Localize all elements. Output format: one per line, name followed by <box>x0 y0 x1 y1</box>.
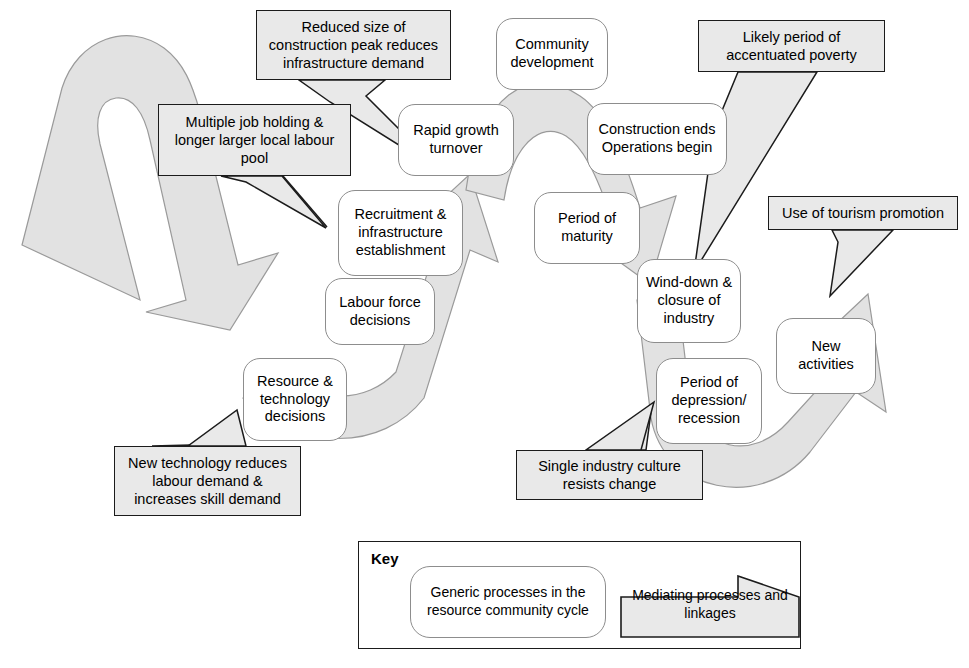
process-node-recruitment: Recruitment &infrastructureestablishment <box>338 190 463 276</box>
diagram-canvas: .flow { fill: #e2e2e2; stroke: #9a9a9a; … <box>0 0 969 668</box>
mediating-callout-tourism: Use of tourism promotion <box>768 196 958 230</box>
process-node-label: Communitydevelopment <box>510 36 593 72</box>
key-title: Key <box>371 550 399 567</box>
mediating-callout-likely-poverty: Likely period ofaccentuated poverty <box>698 20 885 72</box>
process-node-label: Newactivities <box>798 338 854 374</box>
process-node-resource-technology: Resource &technologydecisions <box>243 358 347 441</box>
process-node-label: Recruitment &infrastructureestablishment <box>355 206 447 260</box>
process-node-period-maturity: Period ofmaturity <box>534 192 640 264</box>
mediating-callout-label: Multiple job holding &longer larger loca… <box>175 113 335 168</box>
process-node-period-depression: Period ofdepression/recession <box>656 358 762 444</box>
callout-tail-multiple-job <box>221 176 326 228</box>
process-node-label: Construction endsOperations begin <box>599 121 716 157</box>
process-node-community-dev: Communitydevelopment <box>496 18 608 90</box>
process-node-label: Wind-down &closure ofindustry <box>646 274 732 328</box>
mediating-callout-label: New technology reduceslabour demand &inc… <box>128 454 287 509</box>
mediating-callout-label: Use of tourism promotion <box>782 204 944 222</box>
mediating-callout-new-technology: New technology reduceslabour demand &inc… <box>114 446 301 516</box>
key-mediating-label: Mediating processes andlinkages <box>620 587 800 622</box>
key-legend: Key Generic processes in theresource com… <box>358 541 801 649</box>
process-node-rapid-growth: Rapid growthturnover <box>398 104 514 176</box>
callout-tail-new-technology <box>152 412 238 446</box>
mediating-callout-single-industry: Single industry cultureresists change <box>516 450 703 500</box>
flow-band-left-descent <box>22 36 278 330</box>
process-node-label: Labour forcedecisions <box>339 294 420 330</box>
key-swatch-generic-process: Generic processes in theresource communi… <box>410 566 606 638</box>
callout-tail-multiple-job-second <box>283 176 327 227</box>
mediating-callout-multiple-job: Multiple job holding &longer larger loca… <box>158 104 351 176</box>
callout-tail-single-industry-wedge <box>586 402 654 450</box>
mediating-callout-label: Single industry cultureresists change <box>538 457 681 494</box>
process-node-wind-down: Wind-down &closure ofindustry <box>637 259 741 343</box>
process-node-label: Period ofdepression/recession <box>672 374 747 428</box>
mediating-callout-reduced-size: Reduced size ofconstruction peak reduces… <box>256 10 451 80</box>
key-swatch-mediating-process: Mediating processes andlinkages <box>620 575 800 638</box>
process-node-new-activities: Newactivities <box>776 318 876 394</box>
callout-tail-tourism <box>830 230 893 296</box>
process-node-labour-force: Labour forcedecisions <box>325 278 435 345</box>
process-node-label: Resource &technologydecisions <box>257 373 333 427</box>
mediating-callout-label: Reduced size ofconstruction peak reduces… <box>269 18 438 73</box>
callout-tail-single-industry <box>588 404 652 450</box>
process-node-construction-ends: Construction endsOperations begin <box>587 103 727 175</box>
callout-tail-new-technology-wedge <box>188 410 246 446</box>
process-node-label: Period ofmaturity <box>558 210 616 246</box>
process-node-label: Rapid growthturnover <box>413 122 498 158</box>
mediating-callout-label: Likely period ofaccentuated poverty <box>726 28 857 65</box>
